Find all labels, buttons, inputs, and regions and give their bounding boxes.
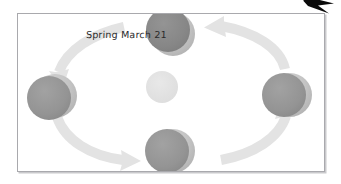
arrow-top-right-head — [204, 16, 226, 37]
earth-right — [262, 73, 312, 117]
arrow-bottom-left — [57, 117, 141, 171]
earth-bottom — [145, 129, 195, 171]
earth-right-dark — [262, 73, 306, 117]
arrow-bottom-right-body — [221, 116, 286, 160]
figure-root: Spring March 21 — [0, 0, 341, 184]
arrow-top-right — [204, 16, 285, 69]
arrow-bottom-left-head — [120, 150, 141, 171]
black-arrow-shape — [304, 0, 335, 14]
earth-left-dark — [27, 76, 71, 120]
orbit-scene — [18, 14, 324, 171]
spring-label: Spring March 21 — [86, 29, 167, 41]
arrow-bottom-left-body — [57, 117, 123, 160]
arrow-top-right-body — [221, 26, 285, 69]
sun — [146, 71, 178, 103]
earth-left — [27, 74, 77, 120]
black-arrow-marker — [303, 0, 337, 14]
diagram-panel: Spring March 21 — [17, 13, 325, 172]
earth-bottom-dark — [145, 129, 189, 171]
